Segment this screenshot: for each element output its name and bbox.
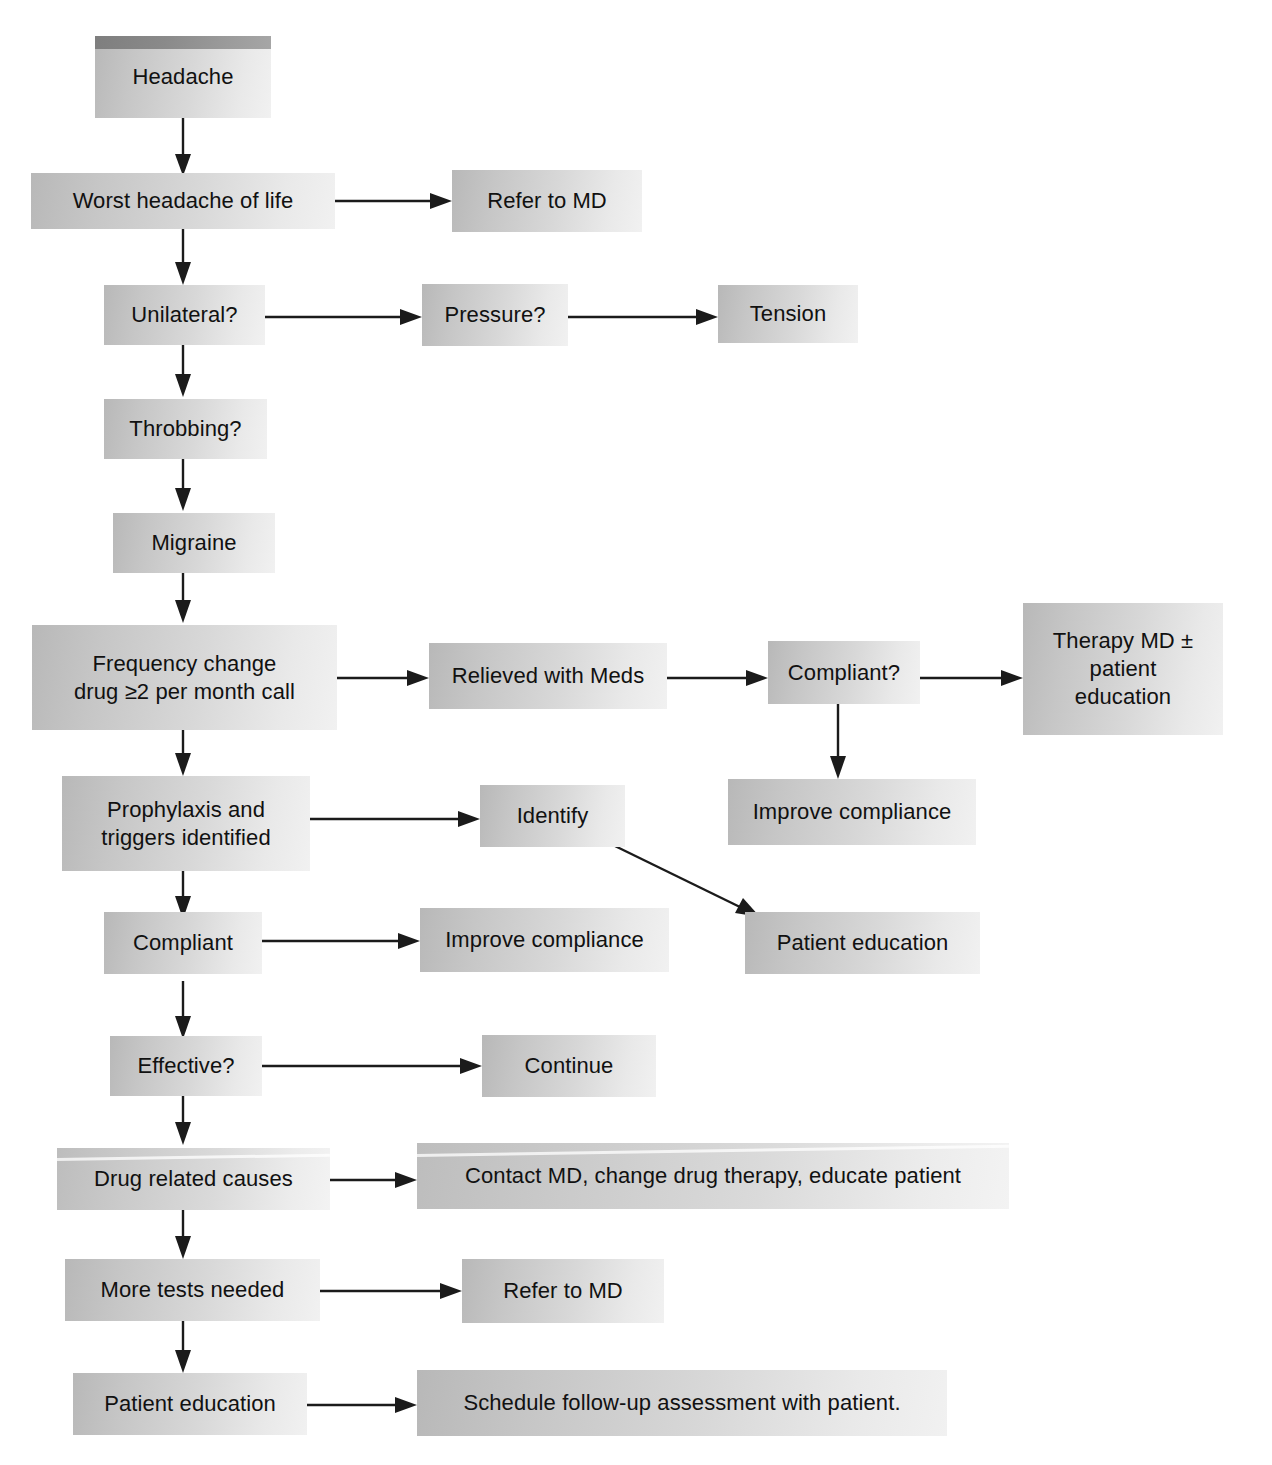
node-worst-headache-of-life[interactable]: Worst headache of life (31, 173, 335, 229)
node-schedule-followup-assessment[interactable]: Schedule follow-up assessment with patie… (417, 1370, 947, 1436)
node-label: Refer to MD (493, 1277, 633, 1305)
node-patient-education-middle[interactable]: Patient education (745, 912, 980, 974)
node-unilateral[interactable]: Unilateral? (104, 285, 265, 345)
node-pressure[interactable]: Pressure? (422, 284, 568, 346)
node-refer-to-md-top[interactable]: Refer to MD (452, 170, 642, 232)
node-label: More tests needed (91, 1276, 295, 1304)
node-label: Throbbing? (119, 415, 251, 443)
node-label: Prophylaxis and triggers identified (91, 796, 280, 851)
node-label: Therapy MD ± patient education (1043, 627, 1203, 710)
node-continue[interactable]: Continue (482, 1035, 656, 1097)
node-improve-compliance-right[interactable]: Improve compliance (728, 779, 976, 845)
node-effective[interactable]: Effective? (110, 1036, 262, 1096)
node-relieved-with-meds[interactable]: Relieved with Meds (429, 643, 667, 709)
node-label: Contact MD, change drug therapy, educate… (455, 1162, 971, 1190)
node-improve-compliance-middle[interactable]: Improve compliance (420, 908, 669, 972)
node-drug-related-causes[interactable]: Drug related causes (57, 1148, 330, 1210)
node-compliant[interactable]: Compliant (104, 912, 262, 974)
node-label: Compliant? (778, 659, 910, 687)
node-frequency-change[interactable]: Frequency change drug ≥2 per month call (32, 625, 337, 730)
node-refer-to-md-bottom[interactable]: Refer to MD (462, 1259, 664, 1323)
node-label: Patient education (767, 929, 959, 957)
node-label: Pressure? (434, 301, 555, 329)
node-more-tests-needed[interactable]: More tests needed (65, 1259, 320, 1321)
node-label: Frequency change drug ≥2 per month call (64, 650, 305, 705)
node-label: Compliant (123, 929, 243, 957)
node-label: Identify (507, 802, 599, 830)
node-label: Refer to MD (477, 187, 617, 215)
node-label: Relieved with Meds (442, 662, 655, 690)
node-throbbing[interactable]: Throbbing? (104, 399, 267, 459)
node-label: Tension (740, 300, 837, 328)
node-identify[interactable]: Identify (480, 785, 625, 847)
node-label: Drug related causes (84, 1165, 303, 1193)
node-migraine[interactable]: Migraine (113, 513, 275, 573)
flowchart-canvas: Headache Worst headache of life Refer to… (0, 0, 1272, 1465)
node-label: Improve compliance (743, 798, 962, 826)
node-tension[interactable]: Tension (718, 285, 858, 343)
node-patient-education-bottom[interactable]: Patient education (73, 1373, 307, 1435)
node-label: Unilateral? (121, 301, 247, 329)
node-label: Effective? (127, 1052, 244, 1080)
node-therapy-md-patient-education[interactable]: Therapy MD ± patient education (1023, 603, 1223, 735)
node-label: Schedule follow-up assessment with patie… (453, 1389, 910, 1417)
node-label: Patient education (94, 1390, 286, 1418)
node-headache[interactable]: Headache (95, 36, 271, 118)
node-contact-md-change-drug-therapy[interactable]: Contact MD, change drug therapy, educate… (417, 1143, 1009, 1209)
node-label: Improve compliance (435, 926, 654, 954)
node-compliant-question[interactable]: Compliant? (768, 641, 920, 704)
node-prophylaxis-and-triggers[interactable]: Prophylaxis and triggers identified (62, 776, 310, 871)
node-label: Worst headache of life (63, 187, 304, 215)
node-label: Continue (515, 1052, 624, 1080)
node-label: Migraine (141, 529, 246, 557)
node-label: Headache (122, 63, 243, 91)
